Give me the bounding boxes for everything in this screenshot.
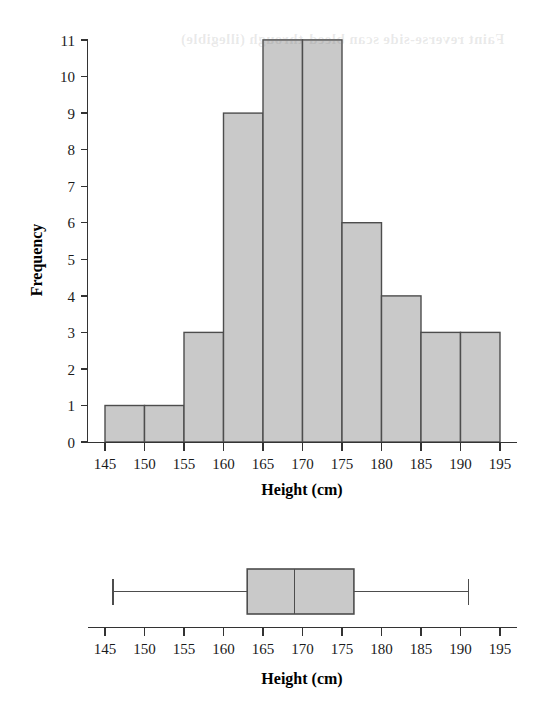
histogram-bar-145-150 xyxy=(105,406,145,443)
boxplot-x-axis: 145 150 155 160 165 170 175 180 185 190 … xyxy=(88,628,518,658)
histogram-xtick-165: 165 xyxy=(252,456,275,472)
histogram-xtick-185: 185 xyxy=(410,456,433,472)
histogram-chart: 11 10 9 8 7 6 5 4 3 2 1 0 Frequency xyxy=(28,33,517,500)
boxplot-xtick-195: 195 xyxy=(489,641,512,657)
histogram-ytick-2: 2 xyxy=(68,362,76,378)
boxplot-xtick-165: 165 xyxy=(252,641,275,657)
histogram-ytick-8: 8 xyxy=(68,142,76,158)
histogram-xtick-170: 170 xyxy=(291,456,314,472)
boxplot-x-axis-title: Height (cm) xyxy=(261,670,342,688)
histogram-x-axis: 145 150 155 160 165 170 175 180 185 190 … xyxy=(88,443,518,473)
histogram-bar-165-170 xyxy=(263,40,303,442)
boxplot-xtick-190: 190 xyxy=(449,641,472,657)
histogram-ytick-11: 11 xyxy=(61,33,75,49)
histogram-ytick-1: 1 xyxy=(68,398,76,414)
boxplot-xtick-175: 175 xyxy=(331,641,354,657)
histogram-bar-180-185 xyxy=(382,296,422,442)
histogram-bar-175-180 xyxy=(342,223,382,442)
statistics-figure: Faint reverse-side scan bleed-through (i… xyxy=(0,0,549,708)
histogram-ytick-10: 10 xyxy=(60,69,75,85)
histogram-xtick-160: 160 xyxy=(212,456,235,472)
histogram-bar-155-160 xyxy=(184,332,224,442)
boxplot-xtick-180: 180 xyxy=(370,641,393,657)
histogram-xtick-175: 175 xyxy=(331,456,354,472)
histogram-bar-190-195 xyxy=(461,332,501,442)
histogram-ytick-5: 5 xyxy=(68,252,76,268)
histogram-bar-170-175 xyxy=(303,40,343,442)
histogram-xtick-155: 155 xyxy=(173,456,196,472)
histogram-xtick-180: 180 xyxy=(370,456,393,472)
histogram-xtick-190: 190 xyxy=(449,456,472,472)
histogram-y-axis-title: Frequency xyxy=(28,224,46,297)
boxplot-xtick-160: 160 xyxy=(212,641,235,657)
histogram-ytick-3: 3 xyxy=(68,325,76,341)
histogram-xtick-145: 145 xyxy=(94,456,117,472)
histogram-bar-185-190 xyxy=(421,332,461,442)
histogram-ytick-9: 9 xyxy=(68,106,76,122)
histogram-ytick-0: 0 xyxy=(68,435,76,451)
boxplot-xtick-150: 150 xyxy=(133,641,156,657)
histogram-y-axis: 11 10 9 8 7 6 5 4 3 2 1 0 xyxy=(60,33,88,451)
histogram-ytick-6: 6 xyxy=(68,215,76,231)
histogram-x-axis-title: Height (cm) xyxy=(261,481,342,499)
histogram-bar-160-165 xyxy=(224,113,264,442)
figure-canvas: 11 10 9 8 7 6 5 4 3 2 1 0 Frequency xyxy=(0,0,549,708)
boxplot-xtick-145: 145 xyxy=(94,641,117,657)
histogram-ytick-7: 7 xyxy=(68,179,76,195)
histogram-ytick-4: 4 xyxy=(68,289,76,305)
boxplot-iqr-box xyxy=(247,569,354,614)
boxplot-xtick-170: 170 xyxy=(291,641,314,657)
histogram-bars xyxy=(105,40,500,442)
boxplot-chart: 145 150 155 160 165 170 175 180 185 190 … xyxy=(88,569,518,688)
histogram-xtick-150: 150 xyxy=(133,456,156,472)
boxplot-xtick-155: 155 xyxy=(173,641,196,657)
histogram-bar-150-155 xyxy=(145,406,185,443)
boxplot-xtick-185: 185 xyxy=(410,641,433,657)
histogram-xtick-195: 195 xyxy=(489,456,512,472)
